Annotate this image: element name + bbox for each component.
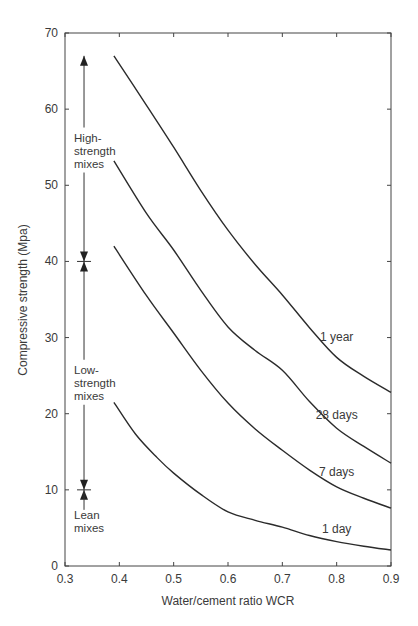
series-label: 1 day <box>322 522 351 536</box>
range-label: mixes <box>74 390 104 402</box>
x-tick-label: 0.4 <box>111 572 128 586</box>
y-tick-label: 60 <box>45 102 59 116</box>
x-tick-label: 0.7 <box>274 572 291 586</box>
y-tick-label: 70 <box>45 26 59 40</box>
x-tick-label: 0.3 <box>57 572 74 586</box>
x-tick-label: 0.5 <box>165 572 182 586</box>
y-tick-label: 30 <box>45 331 59 345</box>
x-tick-label: 0.8 <box>328 572 345 586</box>
plot-frame <box>65 33 391 566</box>
arrow-head-icon <box>80 56 88 66</box>
y-tick-label: 10 <box>45 483 59 497</box>
series-label: 7 days <box>319 465 354 479</box>
range-label: mixes <box>74 522 104 534</box>
series-label: 1 year <box>320 330 353 344</box>
y-axis: 010203040506070 <box>45 26 391 573</box>
x-axis-label: Water/cement ratio WCR <box>162 594 295 608</box>
arrow-head-icon <box>80 261 88 271</box>
y-tick-label: 0 <box>51 559 58 573</box>
y-tick-label: 40 <box>45 254 59 268</box>
arrow-head-icon <box>80 251 88 261</box>
range-annotations: High-strengthmixesLow-strengthmixesLeanm… <box>74 56 116 534</box>
x-tick-label: 0.9 <box>383 572 400 586</box>
range-label: strength <box>74 377 116 389</box>
range-label: High- <box>74 132 102 144</box>
range-label: Low- <box>74 364 99 376</box>
arrow-head-icon <box>80 480 88 490</box>
series-labels: 1 year28 days7 days1 day <box>316 330 358 536</box>
x-axis: 0.30.40.50.60.70.80.9 <box>57 33 400 586</box>
y-tick-label: 20 <box>45 407 59 421</box>
range-label: Lean <box>74 509 100 521</box>
y-tick-label: 50 <box>45 178 59 192</box>
x-tick-label: 0.6 <box>220 572 237 586</box>
chart: 0.30.40.50.60.70.80.9 010203040506070 1 … <box>0 0 418 626</box>
series-label: 28 days <box>316 408 358 422</box>
range-label: mixes <box>74 158 104 170</box>
range-label: strength <box>74 145 116 157</box>
y-axis-label: Compressive strength (Mpa) <box>16 224 30 375</box>
